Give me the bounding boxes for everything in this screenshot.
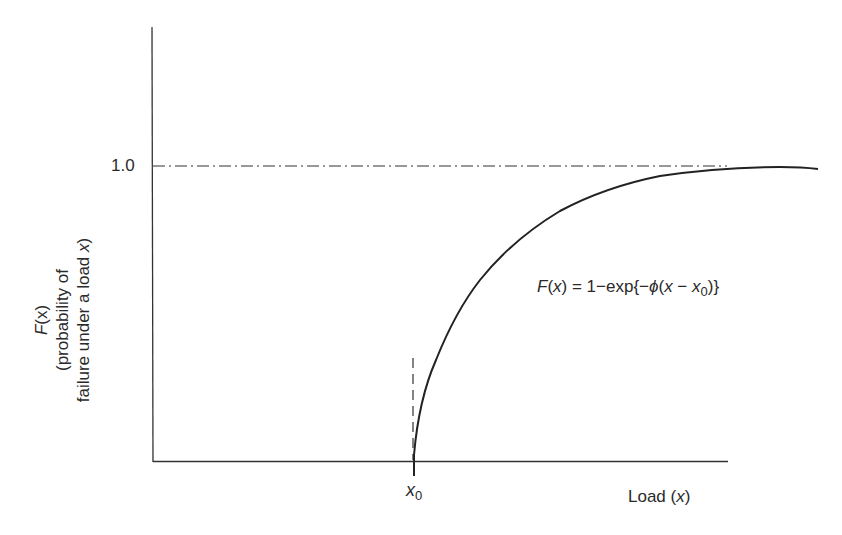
- chart-canvas: [0, 0, 842, 535]
- y-axis-label-line1: F(x): [31, 230, 52, 410]
- x0-tick-label: x0: [406, 480, 422, 503]
- cdf-curve: [414, 167, 818, 476]
- equation-annotation: F(x) = 1−exp{−ϕ(x − x0)}: [537, 277, 719, 299]
- y-axis-label-line2: (probability of: [52, 230, 73, 410]
- y-axis: [152, 27, 153, 462]
- y-axis-label-line3: failure under a load x): [73, 230, 94, 410]
- x-axis-label: Load (x): [628, 487, 690, 507]
- y-tick-1: 1.0: [111, 156, 135, 176]
- y-axis-label: F(x) (probability of failure under a loa…: [31, 230, 94, 410]
